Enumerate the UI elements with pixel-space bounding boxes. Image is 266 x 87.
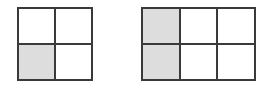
- grid-cell[interactable]: [56, 9, 91, 43]
- grid-cell[interactable]: [218, 9, 254, 43]
- two-by-two-grid: [17, 7, 93, 81]
- figure-canvas: [0, 0, 266, 87]
- grid-cell[interactable]: [143, 45, 179, 79]
- grid-cell[interactable]: [56, 45, 91, 79]
- grid-cell[interactable]: [19, 9, 54, 43]
- grid-cell[interactable]: [181, 45, 217, 79]
- grid-cell[interactable]: [218, 45, 254, 79]
- grid-cell[interactable]: [143, 9, 179, 43]
- grid-cell[interactable]: [19, 45, 54, 79]
- grid-cell[interactable]: [181, 9, 217, 43]
- three-by-two-grid: [141, 7, 256, 81]
